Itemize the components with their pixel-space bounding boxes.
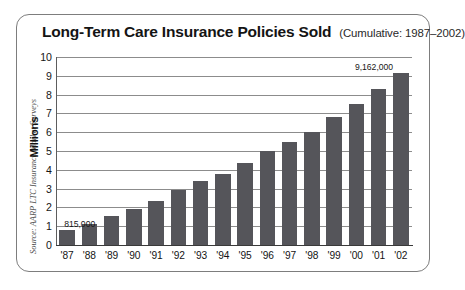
x-axis-tick-label: '01 bbox=[368, 250, 390, 261]
y-axis-tick-label: 10 bbox=[28, 52, 52, 63]
x-axis-tick-label: '93 bbox=[190, 250, 212, 261]
x-axis-tick-label: '91 bbox=[145, 250, 167, 261]
y-axis-tick-label: 5 bbox=[28, 146, 52, 157]
y-axis-tick-label: 0 bbox=[28, 240, 52, 251]
x-axis-tick-label: '97 bbox=[279, 250, 301, 261]
x-axis-tick-label: '00 bbox=[345, 250, 367, 261]
x-axis-tick-label: '90 bbox=[123, 250, 145, 261]
y-axis-tick-label: 8 bbox=[28, 90, 52, 101]
y-axis-tick-label: 9 bbox=[28, 71, 52, 82]
x-axis-tick-label: '99 bbox=[323, 250, 345, 261]
x-axis-tick-label: '02 bbox=[390, 250, 412, 261]
x-axis-tick-label: '98 bbox=[301, 250, 323, 261]
x-axis-tick-label: '94 bbox=[212, 250, 234, 261]
y-axis-tick-label: 2 bbox=[28, 202, 52, 213]
y-axis-tick-label: 4 bbox=[28, 165, 52, 176]
x-axis-tick-label: '89 bbox=[101, 250, 123, 261]
y-axis-tick-label: 6 bbox=[28, 127, 52, 138]
x-axis-tick-label: '96 bbox=[256, 250, 278, 261]
y-axis-tick-label: 1 bbox=[28, 221, 52, 232]
x-axis-ticks: '87'88'89'90'91'92'93'94'95'96'97'98'99'… bbox=[56, 0, 412, 290]
x-axis-tick-label: '95 bbox=[234, 250, 256, 261]
y-axis-ticks: 012345678910 bbox=[26, 57, 52, 246]
x-axis-tick-label: '88 bbox=[78, 250, 100, 261]
y-axis-tick-label: 3 bbox=[28, 184, 52, 195]
x-axis-tick-label: '92 bbox=[167, 250, 189, 261]
x-axis-tick-label: '87 bbox=[56, 250, 78, 261]
y-axis-tick-label: 7 bbox=[28, 108, 52, 119]
